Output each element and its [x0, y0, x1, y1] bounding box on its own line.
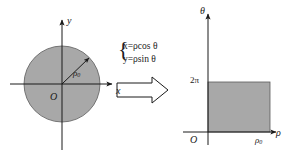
equation-y: y=ρsin θ [123, 53, 157, 66]
rho-tick-label: ρ0 [255, 136, 262, 145]
rho-tick-subscript: 0 [259, 139, 262, 145]
rectangle-shape [208, 82, 270, 132]
theta-axis-label: θ [200, 6, 205, 16]
theta-tick-2pi-label: 2π [190, 76, 199, 85]
left-diagram-group [10, 20, 112, 150]
transform-block-arrow [117, 77, 168, 103]
equation-x: x=ρcos θ [123, 40, 157, 53]
y-axis-label: y [67, 16, 71, 26]
radius-label: ρ0 [73, 69, 80, 78]
left-origin-label: O [50, 92, 57, 102]
polar-transform-figure [0, 0, 287, 153]
right-origin-label: O [190, 135, 197, 145]
rho-axis-label: ρ [276, 128, 281, 138]
x-axis-label: x [116, 86, 120, 96]
radius-subscript: 0 [77, 72, 80, 78]
transform-equations: x=ρcos θ y=ρsin θ [123, 40, 157, 66]
